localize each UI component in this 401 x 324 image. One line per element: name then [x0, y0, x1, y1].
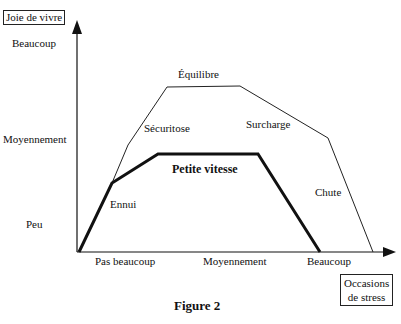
y-level-low: Peu	[26, 218, 43, 230]
label-equilibre: Équilibre	[178, 68, 219, 80]
y-level-medium: Moyennement	[3, 133, 67, 145]
x-level-medium: Moyennement	[203, 255, 267, 267]
x-axis-title: Occasions de stress	[340, 274, 393, 306]
x-axis-arrow-icon	[383, 247, 396, 257]
label-chute: Chute	[315, 186, 341, 198]
label-ennui: Ennui	[110, 198, 136, 210]
label-petite-vitesse: Petite vitesse	[172, 162, 238, 177]
y-axis-arrow-icon	[72, 20, 82, 34]
x-level-high: Beaucoup	[307, 255, 351, 267]
y-axis-title: Joie de vivre	[3, 10, 65, 25]
x-axis-title-line1: Occasions	[344, 276, 389, 290]
y-level-high: Beaucoup	[12, 37, 56, 49]
label-surcharge: Surcharge	[246, 118, 290, 130]
figure-caption: Figure 2	[174, 298, 220, 314]
x-axis-title-line2: de stress	[344, 290, 389, 304]
label-securitose: Sécuritose	[144, 122, 190, 134]
x-level-low: Pas beaucoup	[95, 255, 155, 267]
